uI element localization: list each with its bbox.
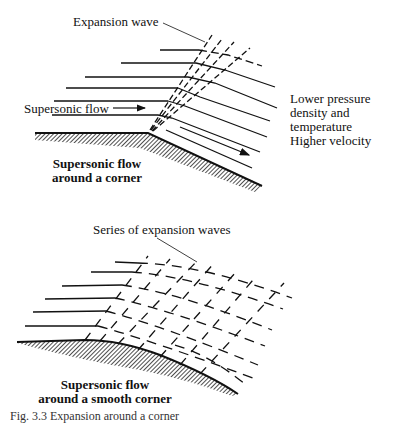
result-line: temperature [290, 120, 371, 134]
smooth-corner-diagram [17, 238, 292, 396]
waves-label-leader [157, 238, 197, 262]
sharp-corner-title: Supersonic flow around a corner [42, 157, 152, 185]
result-line: Higher velocity [290, 134, 371, 148]
wave-label-leader [163, 23, 205, 42]
supersonic-flow-label: Supersonic flow [24, 102, 109, 116]
result-line: Lower pressure [290, 92, 371, 106]
title-line: Supersonic flow [42, 157, 152, 171]
figure-caption: Fig. 3.3 Expansion around a corner [10, 409, 179, 424]
result-text: Lower pressure density and temperature H… [290, 92, 371, 148]
title-line: around a smooth corner [35, 392, 175, 406]
result-line: density and [290, 106, 371, 120]
title-line: Supersonic flow [35, 378, 175, 392]
series-of-waves-label: Series of expansion waves [93, 223, 231, 237]
expansion-wave-label: Expansion wave [73, 15, 159, 29]
title-line: around a corner [42, 171, 152, 185]
smooth-corner-title: Supersonic flow around a smooth corner [35, 378, 175, 406]
